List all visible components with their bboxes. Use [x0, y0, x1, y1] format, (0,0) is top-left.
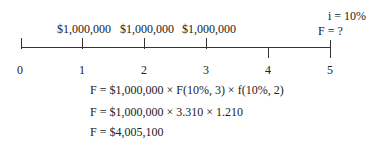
future-value-label: F = ?	[318, 24, 343, 38]
tick-3	[206, 38, 207, 49]
tick-2	[144, 38, 145, 49]
period-0: 0	[17, 63, 23, 77]
equation-3: F = $4,005,100	[90, 125, 163, 139]
equation-2: F = $1,000,000 × 3.310 × 1.210	[90, 105, 243, 119]
tick-4	[268, 48, 269, 58]
interest-rate: i = 10%	[328, 9, 366, 23]
amount-2: $1,000,000	[120, 22, 174, 36]
period-2: 2	[141, 63, 147, 77]
cash-flow-diagram: $1,000,000 $1,000,000 $1,000,000 i = 10%…	[0, 0, 372, 143]
tick-1	[82, 38, 83, 49]
tick-5	[330, 40, 331, 58]
tick-0	[21, 38, 22, 49]
timeline-axis	[21, 47, 331, 48]
period-3: 3	[203, 63, 209, 77]
equation-1: F = $1,000,000 × F(10%, 3) × f(10%, 2)	[90, 83, 284, 97]
amount-3: $1,000,000	[182, 22, 236, 36]
amount-1: $1,000,000	[57, 22, 111, 36]
period-5: 5	[327, 63, 333, 77]
period-1: 1	[79, 63, 85, 77]
period-4: 4	[265, 63, 271, 77]
